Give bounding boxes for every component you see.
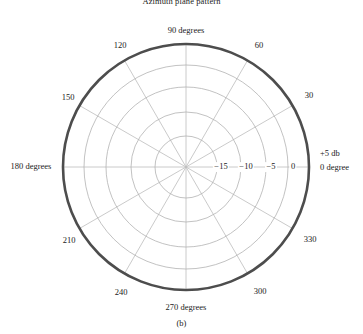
angle-label-120: 120 <box>114 41 127 51</box>
radial-tick-label-minus15: −15 <box>213 162 229 172</box>
angle-label-330: 330 <box>304 235 317 245</box>
angle-label-240: 240 <box>115 288 128 298</box>
angle-label-300: 300 <box>254 287 267 297</box>
gain-max-label: +5 db <box>320 147 340 159</box>
figure-caption: (b) <box>0 318 363 328</box>
angle-label-210: 210 <box>63 236 76 246</box>
angle-label-30: 30 <box>305 91 314 101</box>
radial-tick-label-zero: 0 <box>289 162 296 172</box>
radial-tick-label-minus10: −10 <box>238 162 254 172</box>
angle-label-180: 180 degrees <box>11 162 52 172</box>
polar-plot-area: 90 degrees 120 60 150 30 180 degrees 210… <box>0 0 363 334</box>
reference-angle-label: 0 degree <box>320 161 349 173</box>
angle-label-150: 150 <box>62 93 75 103</box>
polar-grid-svg <box>0 0 363 334</box>
figure-polar-azimuth-pattern: Azimuth plane pattern <box>0 0 363 334</box>
angle-label-90: 90 degrees <box>168 26 205 36</box>
angle-label-60: 60 <box>255 41 264 51</box>
angle-label-270: 270 degrees <box>166 303 207 313</box>
radial-tick-label-minus5: −5 <box>265 162 277 172</box>
